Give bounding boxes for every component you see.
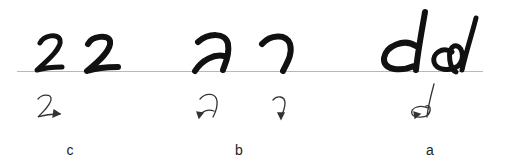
panel-c-sketch: [38, 95, 60, 117]
panel-a-glyphs: [384, 12, 476, 72]
panel-label-b: b: [229, 142, 249, 158]
panel-b-glyphs: [195, 35, 291, 71]
glyph-d-second: [434, 18, 476, 72]
glyph-hook-plain: [262, 36, 291, 71]
panel-label-c: c: [60, 142, 80, 158]
panel-label-a: a: [420, 142, 440, 158]
arrow-head-icon: [278, 113, 284, 119]
panel-a-sketch: [412, 84, 434, 118]
glyph-hook-looped: [195, 35, 228, 71]
arrow-head-icon: [53, 110, 60, 117]
panel-c-glyphs: [37, 36, 118, 71]
glyph-2-first: [37, 36, 62, 70]
panel-b-sketch: [197, 94, 285, 119]
glyph-2-second: [87, 37, 118, 71]
glyph-d-first: [384, 12, 425, 70]
arrow-head-icon: [197, 112, 203, 118]
